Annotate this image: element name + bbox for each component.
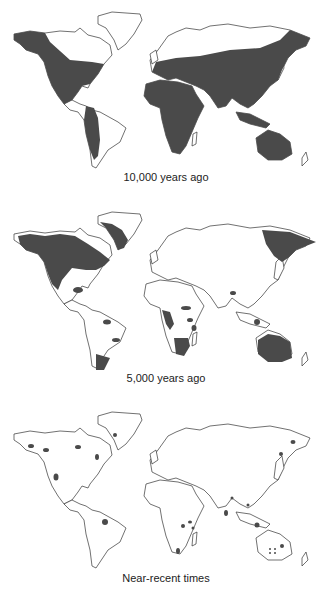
range-india-patch [230,291,236,295]
map-caption: 5,000 years ago [0,372,332,384]
range-point [102,519,108,525]
range-point [247,504,250,507]
map-caption: 10,000 years ago [0,171,332,183]
map-panel-5000-years: 5,000 years ago [0,200,332,394]
range-point [75,445,81,449]
world-map [0,400,332,570]
range-point [291,440,296,444]
range-sahel-patch [181,306,191,310]
range-point [274,548,276,550]
range-point [231,497,234,500]
map-panel-10000-years: 10,000 years ago [0,0,332,194]
range-point [188,521,192,524]
range-point [255,523,260,528]
range-point [269,548,271,550]
range-point [95,454,99,460]
range-southern-africa [174,338,190,356]
range-point [274,552,276,554]
range-point [224,510,228,516]
range-point [280,544,284,548]
range-point [54,474,59,481]
world-map [0,200,332,370]
range-point [43,448,49,452]
range-point [28,444,34,448]
range-east-africa-patch [192,325,197,331]
range-amazon-patch [103,320,111,325]
range-borneo-patch [254,319,260,325]
range-point [192,527,195,530]
range-point [176,548,180,554]
map-panel-near-recent: Near-recent times [0,400,332,594]
range-brazil-patch [112,338,120,342]
range-point [181,524,185,528]
world-map [0,0,332,170]
range-point [113,433,117,437]
range-patagonia [96,354,110,370]
range-point [269,552,271,554]
range-east-africa-patch [187,318,193,322]
range-point [279,452,283,456]
map-caption: Near-recent times [0,572,332,584]
range-se-asia [236,112,270,128]
range-australia [256,130,292,160]
range-australia [258,334,292,362]
range-mexico-patch [73,287,83,293]
